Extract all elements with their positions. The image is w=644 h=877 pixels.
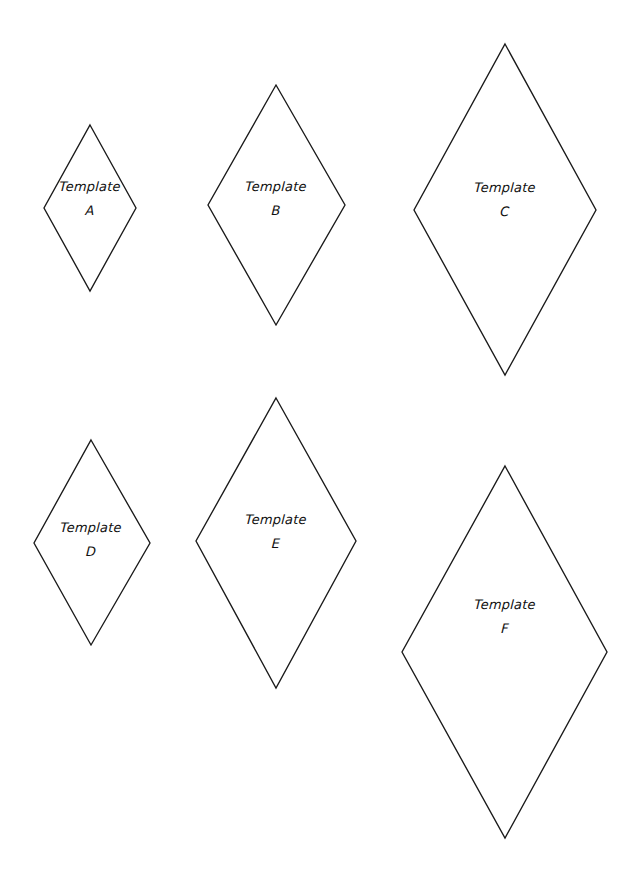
label-word-c: Template <box>425 181 586 194</box>
label-template-b: Template B <box>196 180 356 217</box>
label-letter-f: F <box>425 622 586 635</box>
worksheet-page: Template A Template B Template C Templat… <box>0 0 644 877</box>
label-template-a: Template A <box>10 180 170 217</box>
shape-layer <box>0 0 644 877</box>
label-word-f: Template <box>425 598 586 611</box>
label-word-d: Template <box>11 521 172 534</box>
label-template-c: Template C <box>425 181 585 218</box>
label-word-b: Template <box>196 180 357 193</box>
label-template-d: Template D <box>11 521 171 558</box>
rhombus-outline-f <box>402 466 607 838</box>
label-letter-b: B <box>196 204 357 217</box>
label-letter-a: A <box>10 204 171 217</box>
label-template-f: Template F <box>425 598 585 635</box>
label-letter-d: D <box>11 545 172 558</box>
label-template-e: Template E <box>196 513 356 550</box>
label-letter-c: C <box>425 205 586 218</box>
label-word-e: Template <box>196 513 357 526</box>
label-letter-e: E <box>196 537 357 550</box>
label-word-a: Template <box>10 180 171 193</box>
